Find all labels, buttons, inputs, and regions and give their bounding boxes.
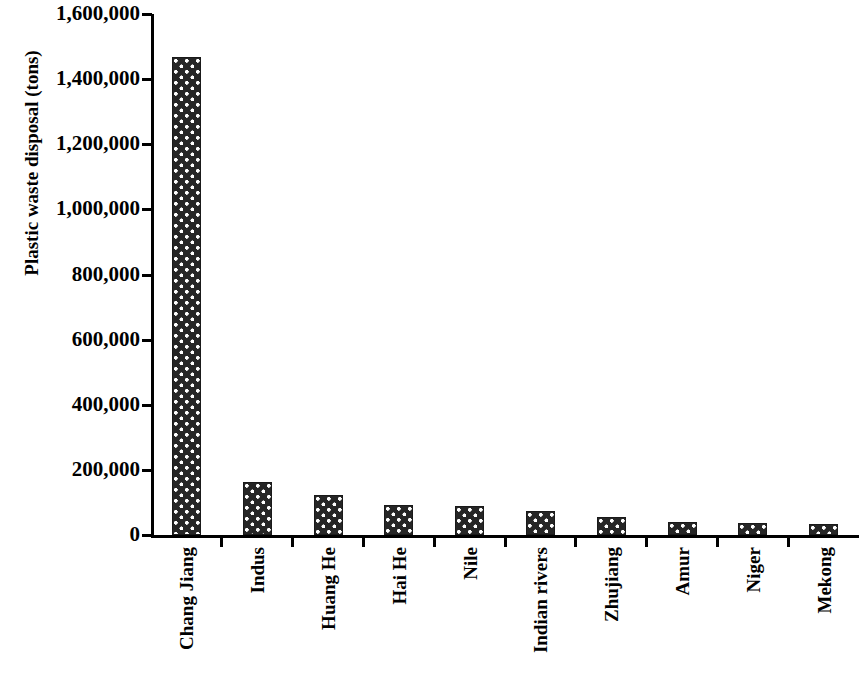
bar xyxy=(243,482,272,535)
y-axis-tick-label: 1,000,000 xyxy=(10,198,140,219)
bar xyxy=(809,524,838,535)
y-axis-tick-label: 0 xyxy=(10,524,140,545)
bar xyxy=(526,511,555,535)
y-axis-tick-mark xyxy=(142,339,152,342)
x-axis-category-label: Amur xyxy=(673,547,692,596)
x-axis-category-label: Indian rivers xyxy=(531,547,550,653)
x-axis-label-slot: Niger xyxy=(738,543,768,676)
x-axis-label-slot: Indus xyxy=(242,543,272,676)
x-axis-category-label: Chang Jiang xyxy=(177,547,196,650)
x-axis-label-slot: Zhujiang xyxy=(596,543,626,676)
x-axis-label-slot: Indian rivers xyxy=(525,543,555,676)
y-axis-tick-mark xyxy=(142,274,152,277)
bar xyxy=(668,522,697,535)
x-axis-category-label: Zhujiang xyxy=(602,547,621,622)
x-axis-category-label: Hai He xyxy=(389,547,408,605)
bar-chart: Plastic waste disposal (tons) 0200,00040… xyxy=(0,0,859,676)
bar xyxy=(314,495,343,535)
x-axis-category-label: Niger xyxy=(743,547,762,592)
x-axis-label-slot: Chang Jiang xyxy=(171,543,201,676)
y-axis-tick-label: 600,000 xyxy=(10,329,140,350)
y-axis-tick-mark xyxy=(142,404,152,407)
bar xyxy=(738,523,767,535)
y-axis-tick-mark xyxy=(142,143,152,146)
x-axis-label-slot: Huang He xyxy=(313,543,343,676)
x-axis-category-label: Huang He xyxy=(319,547,338,630)
x-axis-category-labels: Chang JiangIndusHuang HeHai HeNileIndian… xyxy=(151,543,859,676)
y-axis-tick-mark xyxy=(142,469,152,472)
y-axis-tick-mark xyxy=(142,534,152,537)
bar xyxy=(172,57,201,535)
y-axis-tick-label: 1,400,000 xyxy=(10,68,140,89)
y-axis-tick-label: 800,000 xyxy=(10,264,140,285)
bar xyxy=(597,517,626,535)
y-axis-tick-label: 200,000 xyxy=(10,459,140,480)
y-axis-tick-label: 1,600,000 xyxy=(10,3,140,24)
x-axis-label-slot: Mekong xyxy=(809,543,839,676)
y-axis-tick-label: 400,000 xyxy=(10,394,140,415)
x-axis-label-slot: Hai He xyxy=(384,543,414,676)
x-axis-label-slot: Nile xyxy=(455,543,485,676)
bar xyxy=(455,506,484,535)
x-axis-label-slot: Amur xyxy=(667,543,697,676)
plot-area xyxy=(151,14,859,535)
y-axis-tick-labels: 0200,000400,000600,000800,0001,000,0001,… xyxy=(0,0,140,676)
bar xyxy=(384,505,413,535)
y-axis-tick-mark xyxy=(142,78,152,81)
y-axis-tick-mark xyxy=(142,13,152,16)
y-axis-tick-label: 1,200,000 xyxy=(10,133,140,154)
x-axis-category-label: Indus xyxy=(248,547,267,594)
y-axis-tick-mark xyxy=(142,208,152,211)
x-axis-category-label: Mekong xyxy=(814,547,833,614)
x-axis-category-label: Nile xyxy=(460,547,479,580)
